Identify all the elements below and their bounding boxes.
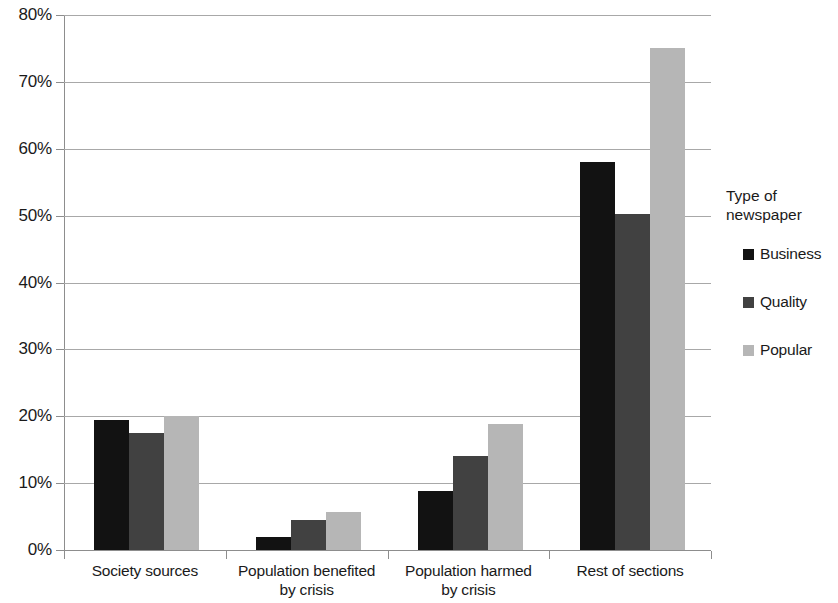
y-axis-tick	[56, 82, 64, 83]
y-axis-tick	[56, 416, 64, 417]
bar	[453, 456, 488, 550]
x-axis-category-label: Population harmedby crisis	[380, 561, 558, 599]
plot-area	[64, 15, 711, 550]
y-axis-labels: 80%70%60%50%40%30%20%10%0%	[0, 0, 52, 603]
bar-group	[94, 15, 199, 550]
x-axis-tick	[226, 551, 227, 559]
bar	[418, 491, 453, 550]
x-axis-category-line: by crisis	[380, 580, 558, 599]
x-axis-tick	[388, 551, 389, 559]
y-axis-tick	[56, 483, 64, 484]
bar	[291, 520, 326, 550]
y-axis-label: 70%	[0, 73, 52, 90]
x-axis-tick	[711, 551, 712, 559]
bar-group	[580, 15, 685, 550]
legend-swatch-icon	[743, 249, 754, 260]
y-axis-tick	[56, 149, 64, 150]
y-axis-tick	[56, 349, 64, 350]
bar-group	[418, 15, 523, 550]
bar	[488, 424, 523, 550]
y-axis-tick	[56, 15, 64, 16]
bar	[580, 162, 615, 550]
y-axis-label: 40%	[0, 274, 52, 291]
x-axis-category-line: Population benefited	[218, 561, 396, 580]
legend-item-label: Quality	[760, 294, 807, 310]
x-axis-tick	[64, 551, 65, 559]
y-axis-label: 0%	[0, 541, 52, 558]
bar	[164, 416, 199, 550]
x-axis-category-label: Society sources	[56, 561, 234, 580]
legend-title: Type of newspaper	[726, 186, 838, 224]
legend-items: BusinessQualityPopular	[726, 244, 838, 360]
y-axis-label: 20%	[0, 407, 52, 424]
legend-swatch-icon	[743, 345, 754, 356]
x-axis-category-line: Society sources	[56, 561, 234, 580]
legend-item-label: Business	[760, 246, 821, 262]
legend-item-popular: Popular	[726, 340, 838, 360]
x-axis-category-label: Population benefitedby crisis	[218, 561, 396, 599]
y-axis-label: 50%	[0, 207, 52, 224]
legend-item-quality: Quality	[726, 292, 838, 312]
chart-legend: Type of newspaper BusinessQualityPopular	[726, 186, 838, 388]
bar-chart: 80%70%60%50%40%30%20%10%0% Type of newsp…	[0, 0, 838, 603]
x-axis-tick	[549, 551, 550, 559]
x-axis-category-line: Population harmed	[380, 561, 558, 580]
y-axis-tick	[56, 550, 64, 551]
y-axis-label: 80%	[0, 6, 52, 23]
legend-item-label: Popular	[760, 342, 812, 358]
y-axis-tick	[56, 283, 64, 284]
y-axis-label: 60%	[0, 140, 52, 157]
bar	[615, 214, 650, 550]
bar	[129, 433, 164, 550]
bar	[94, 420, 129, 550]
x-axis-category-label: Rest of sections	[541, 561, 719, 580]
y-axis-label: 30%	[0, 340, 52, 357]
legend-item-business: Business	[726, 244, 838, 264]
bar	[650, 48, 685, 550]
bar	[256, 537, 291, 550]
bar-group	[256, 15, 361, 550]
legend-swatch-icon	[743, 297, 754, 308]
y-axis-label: 10%	[0, 474, 52, 491]
x-axis-category-line: by crisis	[218, 580, 396, 599]
x-axis-category-line: Rest of sections	[541, 561, 719, 580]
y-axis-tick	[56, 216, 64, 217]
bar	[326, 512, 361, 550]
